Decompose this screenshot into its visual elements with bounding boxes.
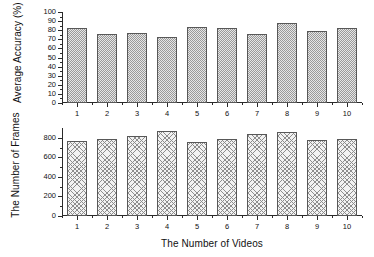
y-axis-minor-tick [60, 17, 62, 18]
x-axis-tick [257, 103, 258, 107]
y-axis-minor-tick [60, 89, 62, 90]
x-axis-minor-tick [332, 103, 333, 105]
x-axis-tick-label: 10 [335, 222, 359, 231]
bar [217, 139, 237, 216]
y-axis-tick [58, 30, 62, 31]
bar [97, 139, 117, 216]
y-axis-tick [58, 12, 62, 13]
y-axis-tick [58, 58, 62, 59]
y-axis-tick [58, 39, 62, 40]
x-axis-tick-label: 2 [95, 222, 119, 231]
x-axis-tick [197, 216, 198, 220]
x-axis-tick [137, 103, 138, 107]
x-axis-tick-label: 9 [305, 109, 329, 118]
bar [277, 132, 297, 216]
y-axis-minor-tick [60, 71, 62, 72]
y-axis-tick [58, 67, 62, 68]
y-axis-tick-label: 400 [16, 172, 56, 181]
x-axis-minor-tick [302, 216, 303, 218]
x-axis-tick [107, 216, 108, 220]
x-axis-tick-label: 4 [155, 222, 179, 231]
bar [307, 31, 327, 103]
x-axis-tick-label: 7 [245, 109, 269, 118]
accuracy-plot-area: 010203040506070809010012345678910 [62, 12, 362, 103]
y-axis-minor-tick [60, 80, 62, 81]
y-axis-tick [58, 196, 62, 197]
y-axis-minor-tick [60, 167, 62, 168]
x-axis-tick [287, 103, 288, 107]
x-axis-tick [257, 216, 258, 220]
bar [187, 142, 207, 217]
x-axis-tick [77, 103, 78, 107]
x-axis-minor-tick [272, 103, 273, 105]
x-axis-tick-label: 6 [215, 109, 239, 118]
x-axis-minor-tick [242, 103, 243, 105]
x-axis-minor-tick [152, 216, 153, 218]
bar [127, 136, 147, 216]
accuracy-chart-panel: 010203040506070809010012345678910 [62, 12, 362, 103]
x-axis-minor-tick [362, 216, 363, 218]
y-axis-minor-tick [60, 44, 62, 45]
x-axis-minor-tick [152, 103, 153, 105]
y-axis-tick-label: 200 [16, 191, 56, 200]
x-axis-tick-label: 2 [95, 109, 119, 118]
x-axis-tick [317, 216, 318, 220]
x-axis-minor-tick [182, 103, 183, 105]
x-axis-tick-label: 3 [125, 109, 149, 118]
x-axis-tick-label: 7 [245, 222, 269, 231]
x-axis-tick-label: 8 [275, 222, 299, 231]
bar [187, 27, 207, 103]
x-axis-tick [137, 216, 138, 220]
y-axis-tick [58, 177, 62, 178]
bar [337, 28, 357, 103]
y-axis-minor-tick [60, 35, 62, 36]
y-axis-line [62, 12, 63, 103]
bar [97, 34, 117, 103]
y-axis-tick [58, 48, 62, 49]
x-axis-minor-tick [62, 103, 63, 105]
x-axis-tick [287, 216, 288, 220]
x-axis-minor-tick [122, 103, 123, 105]
y-axis-tick-label: 600 [16, 152, 56, 161]
y-axis-minor-tick [60, 26, 62, 27]
y-axis-tick [58, 94, 62, 95]
x-axis-minor-tick [182, 216, 183, 218]
bar [67, 28, 87, 103]
bar [247, 134, 267, 216]
x-axis-minor-tick [92, 103, 93, 105]
x-axis-minor-tick [362, 103, 363, 105]
x-axis-tick [167, 216, 168, 220]
y-axis-minor-tick [60, 187, 62, 188]
x-axis-minor-tick [242, 216, 243, 218]
x-axis-tick [107, 103, 108, 107]
x-axis-minor-tick [212, 216, 213, 218]
y-axis-tick [58, 157, 62, 158]
bar [127, 33, 147, 104]
x-axis-tick-label: 8 [275, 109, 299, 118]
bar [67, 141, 87, 216]
x-axis-tick [347, 216, 348, 220]
x-axis-tick [197, 103, 198, 107]
x-axis-minor-tick [92, 216, 93, 218]
frames-y-axis-title: The Number of Frames [10, 110, 21, 220]
frames-chart-panel: 020040060080012345678910 [62, 128, 362, 216]
y-axis-minor-tick [60, 98, 62, 99]
x-axis-minor-tick [272, 216, 273, 218]
x-axis-minor-tick [122, 216, 123, 218]
figure-root: 010203040506070809010012345678910 Averag… [0, 0, 374, 257]
x-axis-tick-label: 1 [65, 222, 89, 231]
accuracy-y-axis-title: Average Accuracy (%) [12, 3, 23, 103]
x-axis-tick [167, 103, 168, 107]
x-axis-tick [227, 216, 228, 220]
x-axis-tick-label: 10 [335, 109, 359, 118]
y-axis-tick [58, 21, 62, 22]
x-axis-minor-tick [332, 216, 333, 218]
bar [337, 139, 357, 216]
y-axis-minor-tick [60, 62, 62, 63]
x-axis-tick-label: 3 [125, 222, 149, 231]
y-axis-line [62, 128, 63, 216]
x-axis-tick [347, 103, 348, 107]
x-axis-tick-label: 1 [65, 109, 89, 118]
y-axis-tick [58, 138, 62, 139]
x-axis-title: The Number of Videos [62, 238, 362, 249]
